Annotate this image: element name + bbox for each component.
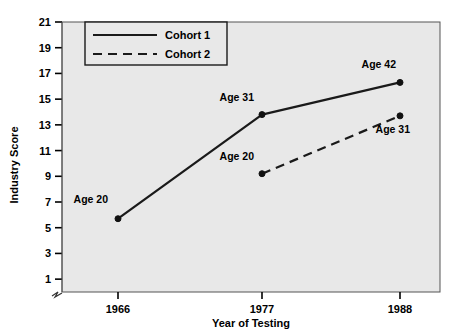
- chart-legend: Cohort 1Cohort 2: [85, 22, 227, 65]
- y-axis-tick-label: 5: [45, 222, 51, 234]
- line-chart: 13579111315171921 196619771988 Age 20Age…: [0, 0, 465, 334]
- chart-container: 13579111315171921 196619771988 Age 20Age…: [0, 0, 465, 334]
- data-point-marker: [115, 216, 121, 222]
- legend-label: Cohort 2: [165, 48, 210, 60]
- x-axis-tick-label: 1977: [250, 303, 274, 315]
- y-axis-tick-label: 15: [39, 93, 51, 105]
- axis-break-symbol: [52, 292, 62, 297]
- point-label: Age 31: [220, 91, 255, 103]
- x-axis: 196619771988: [106, 292, 412, 315]
- y-axis-tick-label: 9: [45, 170, 51, 182]
- y-axis-tick-label: 21: [39, 16, 51, 28]
- x-axis-tick-label: 1966: [106, 303, 130, 315]
- data-point-marker: [397, 113, 403, 119]
- point-label: Age 20: [74, 193, 109, 205]
- x-axis-title: Year of Testing: [212, 317, 290, 329]
- y-axis-tick-label: 11: [39, 145, 51, 157]
- point-label: Age 20: [220, 150, 255, 162]
- data-point-marker: [397, 79, 403, 85]
- point-label: Age 31: [376, 123, 411, 135]
- data-point-marker: [259, 171, 265, 177]
- point-label: Age 42: [362, 58, 397, 70]
- y-axis-tick-label: 1: [45, 273, 51, 285]
- legend-label: Cohort 1: [165, 29, 210, 41]
- y-axis-tick-label: 19: [39, 42, 51, 54]
- y-axis-tick-label: 17: [39, 67, 51, 79]
- y-axis: 13579111315171921: [39, 16, 62, 292]
- y-axis-tick-label: 13: [39, 119, 51, 131]
- y-axis-tick-label: 7: [45, 196, 51, 208]
- y-axis-tick-label: 3: [45, 247, 51, 259]
- x-axis-tick-label: 1988: [388, 303, 412, 315]
- data-point-marker: [259, 112, 265, 118]
- y-axis-title: Industry Score: [8, 126, 20, 203]
- axis-break-zigzag: [52, 292, 62, 297]
